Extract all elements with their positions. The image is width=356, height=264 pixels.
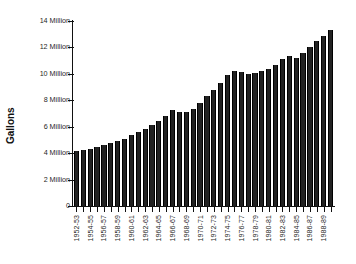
x-axis-tick-mark (276, 207, 277, 212)
x-axis-tick-mark (303, 207, 304, 212)
x-axis-tick-mark (289, 207, 290, 212)
bar (218, 83, 223, 206)
x-axis-tick-label: 1978-79 (252, 215, 259, 241)
x-axis-tick-mark (173, 207, 174, 212)
bar (115, 141, 120, 206)
x-axis-tick-mark (317, 207, 318, 212)
y-axis-tick-mark (68, 21, 74, 22)
x-axis-tick-mark (214, 207, 215, 212)
bar (143, 129, 148, 206)
bar (108, 143, 113, 206)
bar (170, 110, 175, 206)
x-axis-tick-label: 1988-89 (320, 215, 327, 241)
y-axis-tick-mark (68, 100, 74, 101)
x-axis-tick-label: 1984-85 (293, 215, 300, 241)
x-axis-tick-mark (179, 207, 180, 212)
x-axis-tick-mark (138, 207, 139, 212)
bar (74, 151, 79, 207)
bar (259, 71, 264, 206)
x-axis-tick-mark (200, 207, 201, 212)
bar (232, 71, 237, 206)
bar (211, 90, 216, 206)
y-axis-tick-label: 4 Million (14, 149, 70, 157)
x-axis-tick-mark (248, 207, 249, 212)
bar (280, 59, 285, 206)
bar (204, 96, 209, 206)
y-axis-tick-label: 10 Million (14, 70, 70, 78)
x-axis-tick-mark (104, 207, 105, 212)
bar (266, 69, 271, 206)
x-axis-tick-mark (262, 207, 263, 212)
y-axis-tick-label: 0 (14, 202, 70, 210)
x-axis-tick-mark (310, 207, 311, 212)
x-axis-tick-label: 1974-75 (224, 215, 231, 241)
x-axis-tick-mark (296, 207, 297, 212)
x-axis-tick-mark (166, 207, 167, 212)
y-axis-tick-label: 8 Million (14, 96, 70, 104)
y-axis-tick-mark (68, 153, 74, 154)
x-axis-tick-label: 1964-65 (155, 215, 162, 241)
y-axis-tick-label: 6 Million (14, 123, 70, 131)
x-axis-tick-mark (324, 207, 325, 212)
bar (294, 58, 299, 206)
bar (149, 125, 154, 206)
bar (122, 139, 127, 206)
y-axis-tick-labels: 14 Million12 Million10 Million8 Million6… (12, 0, 70, 264)
y-axis-tick-mark (68, 127, 74, 128)
bar (81, 150, 86, 206)
x-axis-tick-mark (76, 207, 77, 212)
x-axis-tick-label: 1956-57 (100, 215, 107, 241)
x-axis-tick-mark (145, 207, 146, 212)
x-axis-tick-mark (193, 207, 194, 212)
x-axis-tick-mark (118, 207, 119, 212)
x-axis-tick-mark (331, 207, 332, 212)
bar (197, 103, 202, 206)
y-axis-tick-label: 12 Million (14, 43, 70, 51)
bar (307, 47, 312, 206)
x-axis-tick-mark (186, 207, 187, 212)
y-axis-tick-label: 14 Million (14, 17, 70, 25)
x-axis-tick-label: 1970-71 (197, 215, 204, 241)
x-axis-tick-label: 1952-53 (73, 215, 80, 241)
x-axis-tick-label: 1968-69 (183, 215, 190, 241)
bar (273, 65, 278, 206)
x-axis-tick-label: 1960-61 (128, 215, 135, 241)
bar (300, 53, 305, 206)
x-axis-tick-mark (207, 207, 208, 212)
x-axis-tick-mark (255, 207, 256, 212)
bar (156, 121, 161, 206)
x-axis-tick-mark (241, 207, 242, 212)
bar (177, 112, 182, 206)
x-axis-tick-label: 1958-59 (114, 215, 121, 241)
x-axis-tick-label: 1962-63 (142, 215, 149, 241)
bar (225, 75, 230, 206)
x-axis-tick-mark (269, 207, 270, 212)
bar (252, 73, 257, 206)
bar (321, 36, 326, 206)
x-axis-tick-mark (83, 207, 84, 212)
x-axis-tick-mark (131, 207, 132, 212)
bar (314, 41, 319, 206)
x-axis-tick-label: 1980-81 (265, 215, 272, 241)
x-axis-tick-mark (90, 207, 91, 212)
x-axis-tick-mark (234, 207, 235, 212)
x-axis-tick-mark (97, 207, 98, 212)
bar-series (73, 21, 334, 206)
y-axis-tick-mark (68, 74, 74, 75)
x-axis-tick-mark (159, 207, 160, 212)
x-axis-tick-mark (221, 207, 222, 212)
x-axis-tick-mark (228, 207, 229, 212)
bar (287, 56, 292, 206)
x-axis-tick-label: 1972-73 (210, 215, 217, 241)
x-axis-tick-label: 1954-55 (87, 215, 94, 241)
x-axis-tick-mark (111, 207, 112, 212)
bar (94, 147, 99, 206)
y-axis-tick-mark (68, 180, 74, 181)
y-axis-tick-mark (68, 206, 74, 207)
x-axis-tick-label: 1986-87 (306, 215, 313, 241)
bar (246, 74, 251, 206)
bar (88, 149, 93, 206)
plot-area (73, 21, 334, 206)
bar (328, 30, 333, 206)
bar (191, 109, 196, 206)
